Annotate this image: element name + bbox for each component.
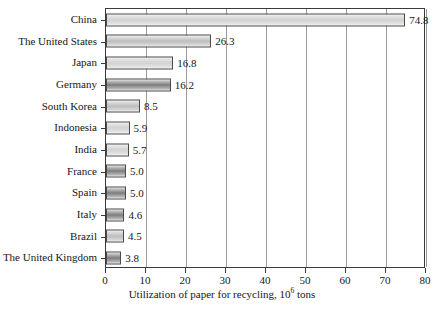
y-axis-tick: [101, 20, 106, 21]
bar-value-label: 16.2: [175, 79, 194, 90]
bar-group: 5.7: [106, 139, 424, 161]
y-axis-labels: ChinaThe United StatesJapanGermanySouth …: [0, 8, 101, 268]
x-axis-tick-10: [145, 268, 146, 273]
bar: [106, 143, 129, 156]
y-axis-tick: [101, 193, 106, 194]
x-axis-tick-40: [265, 268, 266, 273]
bar-group: 5.0: [106, 161, 424, 183]
y-axis-label-germany: Germany: [56, 78, 97, 89]
x-axis-tick-label-20: 20: [180, 274, 191, 286]
x-axis-tick-label-70: 70: [380, 274, 391, 286]
bar-value-label: 5.0: [130, 166, 144, 177]
x-axis-title-suffix: tons: [294, 288, 315, 300]
bar-group: 74.8: [106, 9, 424, 31]
y-axis-tick: [101, 237, 106, 238]
bar-value-label: 74.8: [409, 14, 428, 25]
bar-group: 16.8: [106, 52, 424, 74]
x-axis-tick-30: [225, 268, 226, 273]
bar-value-label: 16.8: [177, 58, 196, 69]
y-axis-tick: [101, 150, 106, 151]
bar: [106, 208, 124, 221]
x-axis-tick-50: [305, 268, 306, 273]
bar: [106, 78, 171, 91]
bar-group: 3.8: [106, 247, 424, 269]
bar-value-label: 3.8: [125, 253, 139, 264]
bar-group: 8.5: [106, 96, 424, 118]
bar: [106, 187, 126, 200]
y-axis-label-south-korea: South Korea: [42, 100, 97, 111]
y-axis-label-spain: Spain: [72, 187, 97, 198]
bar-group: 26.3: [106, 31, 424, 53]
y-axis-tick: [101, 107, 106, 108]
bar-chart: ChinaThe United StatesJapanGermanySouth …: [0, 0, 444, 311]
y-axis-tick: [101, 258, 106, 259]
x-axis-tick-70: [385, 268, 386, 273]
y-axis-label-indonesia: Indonesia: [54, 122, 97, 133]
y-axis-label-italy: Italy: [77, 208, 97, 219]
y-axis-label-the-united-kingdom: The United Kingdom: [3, 252, 97, 263]
bar-group: 4.6: [106, 204, 424, 226]
y-axis-tick: [101, 172, 106, 173]
y-axis-tick: [101, 63, 106, 64]
x-axis-tick-label-0: 0: [102, 274, 108, 286]
plot-area: 74.826.316.816.28.55.95.75.05.04.64.53.8: [105, 8, 425, 268]
bar-group: 16.2: [106, 74, 424, 96]
x-axis-tick-60: [345, 268, 346, 273]
gridline-80: [426, 9, 427, 267]
bar-value-label: 5.7: [133, 144, 147, 155]
x-axis-tick-label-40: 40: [260, 274, 271, 286]
bar: [106, 57, 173, 70]
bar-value-label: 5.9: [134, 123, 148, 134]
x-axis-tick-label-60: 60: [340, 274, 351, 286]
x-axis-title: Utilization of paper for recycling, 106 …: [0, 288, 444, 301]
bar: [106, 165, 126, 178]
y-axis-tick: [101, 85, 106, 86]
y-axis-label-japan: Japan: [72, 57, 97, 68]
bar-group: 5.9: [106, 117, 424, 139]
bar-series: 74.826.316.816.28.55.95.75.05.04.64.53.8: [106, 9, 424, 267]
x-axis-tick-labels: 01020304050607080: [105, 274, 425, 288]
x-axis-tick-label-50: 50: [300, 274, 311, 286]
x-axis-tick-label-30: 30: [220, 274, 231, 286]
bar: [106, 35, 211, 48]
bar-group: 4.5: [106, 226, 424, 248]
x-axis-tick-label-80: 80: [420, 274, 431, 286]
bar-value-label: 4.5: [128, 231, 142, 242]
bar-group: 5.0: [106, 182, 424, 204]
y-axis-label-brazil: Brazil: [70, 230, 97, 241]
y-axis-label-india: India: [74, 143, 97, 154]
bar: [106, 122, 130, 135]
y-axis-label-china: China: [71, 13, 97, 24]
bar-value-label: 8.5: [144, 101, 158, 112]
y-axis-tick: [101, 42, 106, 43]
y-axis-label-france: France: [67, 165, 97, 176]
y-axis-tick: [101, 215, 106, 216]
x-axis-tick-label-10: 10: [140, 274, 151, 286]
y-axis-label-the-united-states: The United States: [18, 35, 97, 46]
bar-value-label: 26.3: [215, 36, 234, 47]
bar: [106, 252, 121, 265]
bar: [106, 100, 140, 113]
x-axis-title-prefix: Utilization of paper for recycling, 10: [129, 288, 291, 300]
x-axis-tick-80: [425, 268, 426, 273]
bar: [106, 230, 124, 243]
bar: [106, 13, 405, 26]
bar-value-label: 4.6: [128, 209, 142, 220]
x-axis-tick-0: [105, 268, 106, 273]
x-axis-tick-20: [185, 268, 186, 273]
y-axis-tick: [101, 128, 106, 129]
bar-value-label: 5.0: [130, 188, 144, 199]
